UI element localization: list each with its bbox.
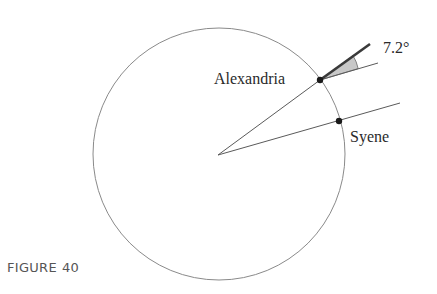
figure-caption: FIGURE40: [7, 260, 79, 275]
caption-number: 40: [62, 260, 79, 275]
radius-to-alexandria: [218, 80, 320, 155]
syene-label: Syene: [350, 128, 389, 146]
gnomon-line: [320, 44, 370, 80]
alexandria-point: [317, 77, 323, 83]
caption-label: FIGURE: [7, 260, 57, 275]
figure-canvas: Alexandria Syene 7.2° FIGURE40: [0, 0, 437, 294]
syene-point: [336, 118, 342, 124]
angle-label: 7.2°: [383, 39, 409, 56]
alexandria-label: Alexandria: [214, 70, 285, 87]
eratosthenes-diagram: Alexandria Syene 7.2°: [0, 0, 437, 294]
